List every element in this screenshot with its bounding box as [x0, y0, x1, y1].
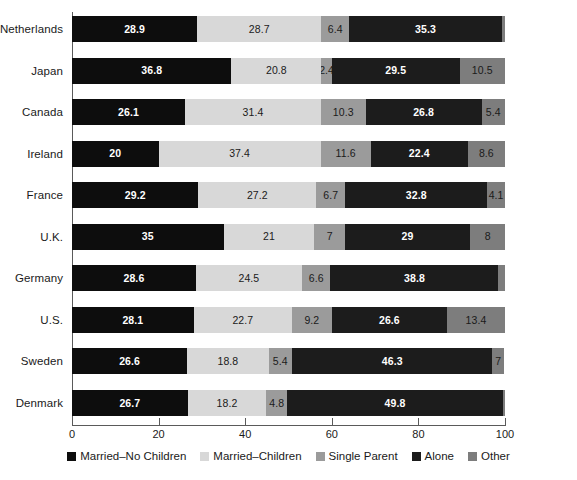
- bar-segment: 10.5: [460, 58, 505, 84]
- bar-segment-value: 6.4: [328, 24, 343, 35]
- bar-segment-value: 20: [109, 148, 121, 159]
- bar-segment-value: 6.7: [323, 190, 338, 201]
- bar-row: Ireland2037.411.622.48.6: [72, 139, 505, 169]
- bar-segment: 5.4: [482, 99, 505, 125]
- bar-segment: 36.8: [72, 58, 231, 84]
- bar-segment: [503, 390, 505, 416]
- bar-segment: 26.6: [72, 348, 187, 374]
- bar-segment: 6.7: [316, 182, 345, 208]
- bar-segment: 37.4: [159, 141, 321, 167]
- bar-row: Sweden26.618.85.446.37: [72, 346, 505, 376]
- square-swatch-icon: [468, 452, 477, 461]
- bar-segment-value: 38.8: [404, 273, 425, 284]
- bar-segment-value: 9.2: [304, 315, 319, 326]
- bar-segment: 28.9: [72, 16, 197, 42]
- bar-segment: 29.5: [332, 58, 460, 84]
- stacked-bar: 26.618.85.446.37: [72, 348, 505, 374]
- legend-item: Other: [468, 450, 510, 462]
- category-label: Canada: [22, 106, 72, 118]
- category-label: U.S.: [40, 314, 72, 326]
- bar-segment: 26.1: [72, 99, 185, 125]
- bar-segment-value: 5.4: [486, 107, 501, 118]
- bar-segment: 26.8: [366, 99, 482, 125]
- bar-segment-value: 18.8: [217, 356, 238, 367]
- bar-segment-value: 28.6: [123, 273, 144, 284]
- bar-segment: 20: [72, 141, 159, 167]
- bar-segment: 28.1: [72, 307, 194, 333]
- bar-row: Canada26.131.410.326.85.4: [72, 97, 505, 127]
- plot-area: Netherlands28.928.76.435.3Japan36.820.82…: [0, 0, 577, 446]
- bar-segment-value: 4.8: [269, 398, 284, 409]
- bar-rows-container: Netherlands28.928.76.435.3Japan36.820.82…: [72, 14, 505, 418]
- bar-segment-value: 26.1: [118, 107, 139, 118]
- bar-segment: 6.4: [321, 16, 349, 42]
- bar-segment-value: 8.6: [479, 148, 494, 159]
- square-swatch-icon: [67, 452, 76, 461]
- bar-segment: 29.2: [72, 182, 198, 208]
- bar-segment: 10.3: [321, 99, 366, 125]
- x-axis-tick: [245, 418, 246, 425]
- bar-segment-value: 29.2: [125, 190, 146, 201]
- bar-segment-value: 32.8: [406, 190, 427, 201]
- bar-segment: 32.8: [345, 182, 487, 208]
- x-axis-tick-labels: 020406080100: [72, 428, 505, 444]
- square-swatch-icon: [200, 452, 209, 461]
- bar-segment-value: 11.6: [336, 148, 356, 159]
- bar-segment-value: 28.1: [122, 315, 143, 326]
- bar-segment: 31.4: [185, 99, 321, 125]
- category-label: Netherlands: [0, 23, 72, 35]
- legend-label: Other: [481, 450, 510, 462]
- bar-segment: 4.8: [266, 390, 287, 416]
- bar-segment-value: 26.6: [379, 315, 400, 326]
- bar-segment-value: 5.4: [273, 356, 288, 367]
- bar-segment: 8: [470, 224, 505, 250]
- bar-segment: 28.6: [72, 265, 196, 291]
- category-label: Sweden: [21, 355, 72, 367]
- bar-row: Japan36.820.82.429.510.5: [72, 56, 505, 86]
- bar-segment-value: 7: [495, 356, 501, 367]
- stacked-bar: 28.122.79.226.613.4: [72, 307, 505, 333]
- bar-segment: 29: [345, 224, 471, 250]
- bar-segment: 28.7: [197, 16, 321, 42]
- bar-segment-value: 7: [327, 231, 333, 242]
- bar-segment-value: 18.2: [217, 398, 238, 409]
- bar-segment: 35.3: [349, 16, 502, 42]
- bar-segment: 49.8: [287, 390, 503, 416]
- x-axis-tick-label: 20: [152, 428, 164, 440]
- bar-segment: 2.4: [321, 58, 331, 84]
- x-axis-tick: [332, 418, 333, 425]
- legend-label: Alone: [425, 450, 454, 462]
- bar-segment-value: 13.4: [466, 315, 487, 326]
- stacked-bar: 36.820.82.429.510.5: [72, 58, 505, 84]
- bar-row: Denmark26.718.24.849.8: [72, 388, 505, 418]
- stacked-bar: 35217298: [72, 224, 505, 250]
- bar-segment-value: 49.8: [385, 398, 406, 409]
- bar-row: Germany28.624.56.638.8: [72, 263, 505, 293]
- bar-segment: 38.8: [330, 265, 498, 291]
- stacked-bar: 28.928.76.435.3: [72, 16, 505, 42]
- bar-row: France29.227.26.732.84.1: [72, 180, 505, 210]
- x-axis-tick-label: 40: [239, 428, 251, 440]
- bar-segment-value: 28.9: [124, 24, 145, 35]
- bar-segment-value: 20.8: [266, 65, 287, 76]
- bar-segment-value: 6.6: [309, 273, 324, 284]
- x-axis-tick: [72, 418, 73, 425]
- bar-segment: 27.2: [198, 182, 316, 208]
- bar-segment-value: 29: [402, 231, 414, 242]
- bar-segment-value: 35.3: [415, 24, 436, 35]
- bar-segment: 6.6: [302, 265, 331, 291]
- bar-segment-value: 37.4: [229, 148, 250, 159]
- bar-segment: 7: [492, 348, 504, 374]
- category-label: Ireland: [27, 148, 72, 160]
- bar-segment-value: 2.4: [321, 65, 331, 76]
- x-axis-ticks: [72, 418, 505, 426]
- bar-segment-value: 26.6: [119, 356, 140, 367]
- stacked-bar: 26.131.410.326.85.4: [72, 99, 505, 125]
- bar-segment: 22.4: [371, 141, 468, 167]
- bar-segment-value: 29.5: [385, 65, 406, 76]
- bar-segment-value: 27.2: [247, 190, 268, 201]
- bar-segment: 18.8: [187, 348, 268, 374]
- bar-segment: 13.4: [447, 307, 505, 333]
- bar-segment-value: 28.7: [249, 24, 270, 35]
- bar-segment: 26.7: [72, 390, 188, 416]
